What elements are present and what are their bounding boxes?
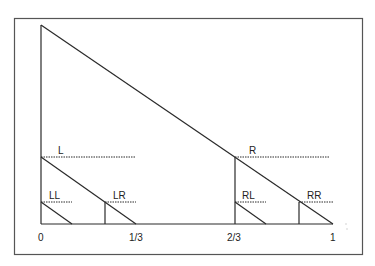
interval-subdivision-diagram: L LL LR R RL RR 0 1/3 2/3 1 (0, 0, 375, 266)
tick-1: 1 (330, 232, 336, 243)
tick-0: 0 (38, 232, 44, 243)
label-L: L (58, 145, 64, 156)
tick-2-3: 2/3 (227, 232, 241, 243)
label-R: R (249, 145, 256, 156)
RL-diagonal (235, 202, 266, 224)
speck-mark (345, 223, 347, 225)
label-RR: RR (307, 190, 321, 201)
label-LR: LR (113, 190, 126, 201)
tick-1-3: 1/3 (129, 232, 143, 243)
label-RL: RL (242, 190, 255, 201)
main-diagonal (41, 25, 333, 224)
label-LL: LL (49, 190, 61, 201)
speck-mark-2 (346, 228, 348, 230)
outer-frame (15, 19, 363, 255)
LL-diagonal (41, 202, 72, 224)
